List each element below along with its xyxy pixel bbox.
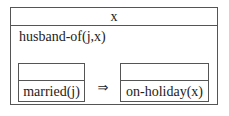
consequent-drs-condition: on-holiday(x) xyxy=(121,81,208,101)
implication-arrow-icon: ⇒ xyxy=(93,80,113,96)
consequent-drs-universe xyxy=(121,64,208,81)
outer-drs-condition: husband-of(j,x) xyxy=(19,29,106,45)
consequent-drs-box: on-holiday(x) xyxy=(120,63,209,102)
antecedent-drs-condition: married(j) xyxy=(19,81,84,101)
outer-drs-box: x husband-of(j,x) married(j) ⇒ on-holida… xyxy=(10,7,218,105)
outer-drs-universe: x xyxy=(11,8,217,26)
antecedent-drs-box: married(j) xyxy=(18,63,85,102)
antecedent-drs-universe xyxy=(19,64,84,81)
